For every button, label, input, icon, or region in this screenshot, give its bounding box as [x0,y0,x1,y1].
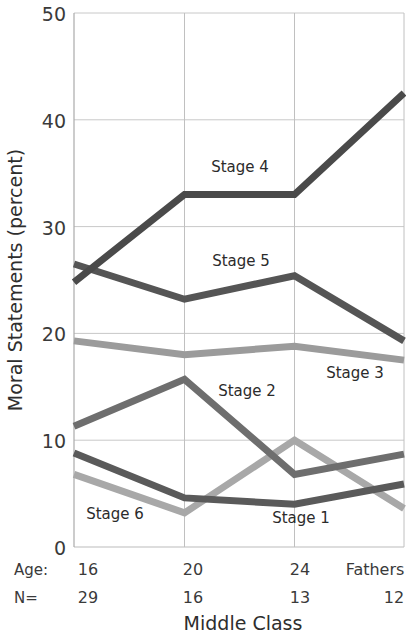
age-value-fathers: Fathers [346,560,405,579]
y-axis-title: Moral Statements (percent) [4,149,26,411]
chart-figure: 50 40 30 20 10 0 Moral Statements (perce… [0,0,406,636]
series-label-stage-1: Stage 1 [272,509,330,527]
y-tick-50: 50 [42,3,66,25]
series-label-stage-4: Stage 4 [211,158,269,176]
y-tick-20: 20 [42,323,66,345]
age-value-20: 20 [183,560,203,579]
n-value-29: 29 [78,588,98,607]
age-value-16: 16 [78,560,98,579]
series-label-stage-3: Stage 3 [326,364,384,382]
y-tick-30: 30 [42,217,66,239]
n-value-13: 13 [290,588,310,607]
x-axis-title: Middle Class [184,612,303,634]
y-axis-tick-labels: 50 40 30 20 10 0 [42,3,66,559]
age-value-24: 24 [290,560,310,579]
line-chart: 50 40 30 20 10 0 Moral Statements (perce… [0,0,406,636]
series-label-stage-5: Stage 5 [212,252,270,270]
n-row-label: N= [14,589,38,607]
y-tick-40: 40 [42,110,66,132]
n-value-16: 16 [183,588,203,607]
age-row-label: Age: [14,561,48,579]
series-label-stage-6: Stage 6 [86,505,144,523]
x-axis-age-row: Age: 16 20 24 Fathers [14,560,404,579]
y-tick-10: 10 [42,430,66,452]
series-label-stage-2: Stage 2 [218,382,276,400]
x-axis-n-row: N= 29 16 13 12 [14,588,404,607]
y-tick-0: 0 [54,537,66,559]
n-value-12: 12 [384,588,404,607]
